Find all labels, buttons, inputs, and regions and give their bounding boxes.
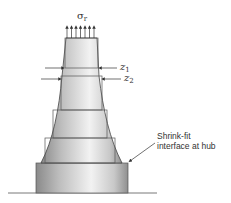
sigma-subscript: r xyxy=(84,15,87,23)
z2-label: z2 xyxy=(124,73,134,85)
annotation-leader xyxy=(130,143,155,161)
shrink-fit-annotation: Shrink-fit interface at hub xyxy=(157,131,216,151)
turbine-disk-diagram xyxy=(0,0,231,203)
radial-stress-label: σr xyxy=(77,11,87,23)
annotation-line-2: interface at hub xyxy=(157,141,216,151)
sigma-symbol: σ xyxy=(77,10,84,21)
radial-stress-arrows xyxy=(67,27,94,38)
annotation-line-1: Shrink-fit xyxy=(157,131,216,141)
hub-base xyxy=(36,163,128,193)
disk-profile xyxy=(41,38,122,163)
z2-subscript: 2 xyxy=(129,77,133,85)
